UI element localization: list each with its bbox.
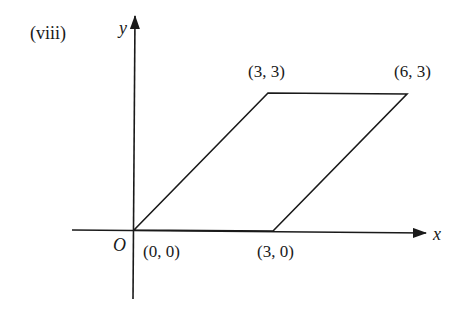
vertex-label-0-0: (0, 0) [143, 243, 180, 260]
figure-label: (viii) [30, 24, 66, 42]
parallelogram-shape [134, 93, 407, 231]
vertex-label-3-0: (3, 0) [257, 243, 294, 260]
y-axis-label: y [119, 19, 127, 37]
x-axis-label: x [433, 225, 441, 243]
vertex-label-6-3: (6, 3) [394, 63, 431, 80]
y-axis [133, 16, 135, 299]
origin-label: O [113, 236, 126, 254]
coordinate-diagram [0, 0, 464, 311]
vertex-label-3-3: (3, 3) [248, 63, 285, 80]
